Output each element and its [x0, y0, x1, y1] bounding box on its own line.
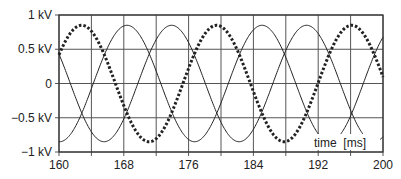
- x-tick-label: 176: [179, 158, 199, 172]
- x-axis-ticks: 160168176184192200: [49, 158, 393, 172]
- y-tick-label: −1 kV: [21, 145, 52, 159]
- x-tick-label: 200: [373, 158, 393, 172]
- y-tick-label: 0: [45, 77, 52, 91]
- y-axis-ticks: 1 kV0.5 kV0−0.5 kV−1 kV: [11, 8, 52, 159]
- y-tick-label: −0.5 kV: [11, 111, 52, 125]
- y-tick-label: 0.5 kV: [18, 42, 52, 56]
- x-tick-label: 168: [114, 158, 134, 172]
- y-tick-label: 1 kV: [28, 8, 52, 22]
- x-tick-label: 160: [49, 158, 69, 172]
- x-axis-label: time [ms]: [314, 136, 366, 150]
- x-tick-label: 184: [243, 158, 263, 172]
- x-tick-label: 192: [308, 158, 328, 172]
- three-phase-voltage-chart: 1 kV0.5 kV0−0.5 kV−1 kV 1601681761841922…: [0, 0, 401, 179]
